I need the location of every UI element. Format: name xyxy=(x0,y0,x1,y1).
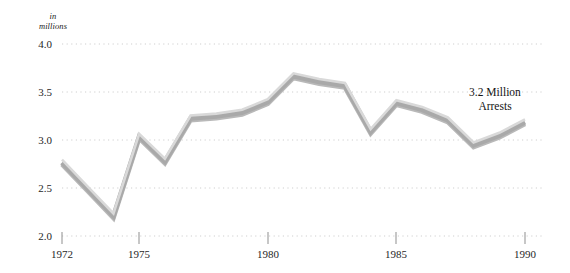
plot-area xyxy=(0,0,570,273)
annotation-line-1: 3.2 Million xyxy=(434,85,556,99)
x-tick-label-1980: 1980 xyxy=(242,249,294,260)
line-chart: in millions xyxy=(0,0,570,273)
x-tick-label-1972: 1972 xyxy=(36,249,88,260)
annotation-line-2: Arrests xyxy=(434,99,556,113)
y-tick-label-4-0: 4.0 xyxy=(22,39,52,50)
y-tick-label-3-0: 3.0 xyxy=(22,135,52,146)
y-tick-label-2-0: 2.0 xyxy=(22,231,52,242)
x-axis-tick-marks xyxy=(62,232,525,244)
x-tick-label-1985: 1985 xyxy=(370,249,422,260)
series-annotation-3-2-million-arrests: 3.2 Million Arrests xyxy=(434,85,556,113)
x-tick-label-1975: 1975 xyxy=(113,249,165,260)
x-tick-label-1990: 1990 xyxy=(499,249,551,260)
y-tick-label-2-5: 2.5 xyxy=(22,183,52,194)
y-tick-label-3-5: 3.5 xyxy=(22,87,52,98)
